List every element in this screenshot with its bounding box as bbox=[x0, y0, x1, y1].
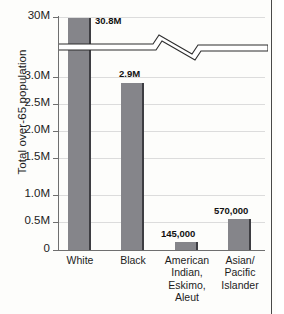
value-label-black: 2.9M bbox=[119, 68, 140, 79]
value-label-asian-pacific: 570,000 bbox=[214, 205, 248, 216]
x-category-label-asian-pacific: Asian/ Pacific Islander bbox=[210, 254, 270, 291]
axis-break-icon bbox=[58, 30, 268, 64]
x-category-label-white: White bbox=[50, 254, 110, 266]
value-label-american-indian: 145,000 bbox=[161, 228, 195, 239]
y-tick-label-1.5M: 1.5M bbox=[0, 150, 50, 162]
y-tick-label-0.5M: 0.5M bbox=[0, 214, 50, 226]
bar-black bbox=[121, 83, 144, 250]
y-tick-label-2.0M: 2.0M bbox=[0, 123, 50, 135]
bar-chart: Total over-65 population 30M 3.0M 2.5M 2… bbox=[0, 0, 284, 314]
bar-asian-pacific bbox=[228, 219, 251, 250]
x-axis-line bbox=[58, 250, 265, 251]
y-tick-label-2.5M: 2.5M bbox=[0, 96, 50, 108]
y-tick-label-0: 0 bbox=[0, 242, 50, 254]
y-tick-label-1.0M: 1.0M bbox=[0, 187, 50, 199]
y-tick-label-30M: 30M bbox=[0, 9, 50, 21]
value-label-white: 30.8M bbox=[95, 15, 121, 26]
page-margin bbox=[276, 0, 284, 314]
bar-american-indian bbox=[175, 242, 198, 250]
y-axis-line bbox=[58, 16, 59, 251]
page-edge-rule bbox=[271, 0, 272, 314]
y-tick-label-3.0M: 3.0M bbox=[0, 69, 50, 81]
